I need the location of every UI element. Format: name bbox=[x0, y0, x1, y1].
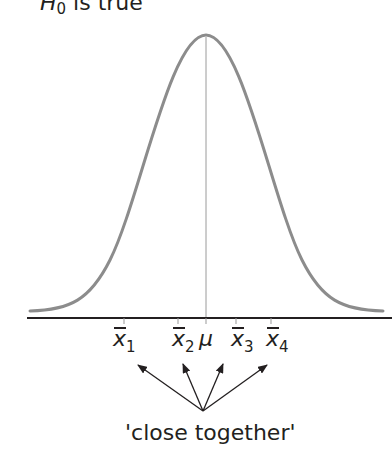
x1-subscript: 1 bbox=[126, 338, 136, 356]
label-x2: x2 bbox=[172, 326, 195, 356]
caption: 'close together' bbox=[125, 420, 296, 445]
x3-symbol: x bbox=[231, 326, 244, 351]
normal-distribution-diagram bbox=[0, 0, 392, 459]
label-x4: x4 bbox=[266, 326, 289, 356]
label-mu: μ bbox=[199, 326, 213, 351]
mu-symbol: μ bbox=[199, 326, 213, 351]
x3-subscript: 3 bbox=[244, 338, 254, 356]
arrows bbox=[138, 364, 267, 411]
label-x3: x3 bbox=[231, 326, 254, 356]
x4-symbol: x bbox=[266, 326, 279, 351]
x2-symbol: x bbox=[172, 326, 185, 351]
x2-subscript: 2 bbox=[185, 338, 195, 356]
x4-subscript: 4 bbox=[279, 338, 289, 356]
label-x1: x1 bbox=[113, 326, 136, 356]
x1-symbol: x bbox=[113, 326, 126, 351]
